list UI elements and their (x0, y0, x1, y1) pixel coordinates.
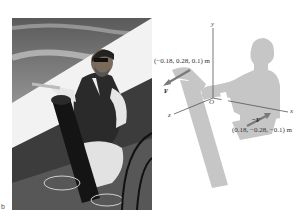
y-axis-label: y (211, 21, 214, 28)
sailor-winch-illustration (12, 18, 152, 210)
neg-force-point-label: (0.18, −0.28, −0.1) m (232, 127, 292, 134)
force-point-label: (−0.18, 0.28, 0.1) m (154, 58, 210, 65)
x-axis-label: x (290, 108, 293, 115)
z-axis-label: z (168, 112, 171, 119)
origin-label: O (209, 99, 214, 106)
force-label: F (164, 88, 168, 95)
force-couple-diagram: y x z O (−0.18, 0.28, 0.1) m F −F (0.18,… (150, 0, 305, 224)
figure-part-label: b (1, 203, 5, 210)
neg-force-label: −F (252, 117, 260, 124)
